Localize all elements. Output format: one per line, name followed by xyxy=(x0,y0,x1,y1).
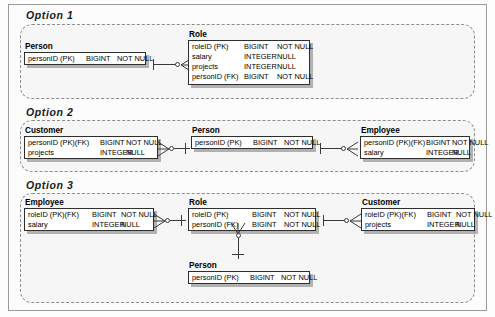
entity-employee-option2: Employee personID (PK)(FK) BIGINT NOT NU… xyxy=(360,126,494,159)
column-name: salary xyxy=(28,220,48,229)
connector-line xyxy=(238,238,239,259)
column-name: projects xyxy=(365,220,391,229)
entity-box: personID (PK) BIGINT NOT NULL xyxy=(24,52,146,65)
option-1-label: Option 1 xyxy=(26,9,73,21)
column-nullability: NOT NULL xyxy=(284,138,320,147)
column-nullability: NULL xyxy=(121,220,140,229)
entity-box: roleID (PK) BIGINT NOT NULL salary INTEG… xyxy=(188,40,310,85)
column-nullability: NOT NULL xyxy=(126,138,162,147)
column-nullability: NOT NULL xyxy=(121,210,157,219)
entity-employee-option3: Employee roleID (PK)(FK) BIGINT NOT NULL… xyxy=(24,198,154,231)
column-name: personID (PK) xyxy=(192,273,239,282)
connector-line xyxy=(153,64,177,65)
option-3-label: Option 3 xyxy=(26,179,73,191)
column-nullability: NOT NULL xyxy=(281,273,317,282)
entity-box: personID (PK)(FK) BIGINT NOT NULL salary… xyxy=(360,136,470,159)
entity-customer-option2: Customer personID (PK)(FK) BIGINT NOT NU… xyxy=(24,126,158,159)
entity-title: Person xyxy=(188,261,310,270)
column-name: personID (PK) xyxy=(28,54,75,63)
one-tick xyxy=(232,254,244,255)
entity-box: personID (PK) BIGINT NOT NULL xyxy=(191,136,313,149)
connector-line xyxy=(170,220,186,221)
entity-role-option1: Role roleID (PK) BIGINT NOT NULL salary … xyxy=(188,30,310,85)
column-name: roleID (PK) xyxy=(192,42,229,51)
column-name: roleID (PK) xyxy=(192,210,229,219)
column-nullability: NOT NULL xyxy=(117,54,153,63)
column-name: projects xyxy=(28,148,54,157)
column-type: BIGINT xyxy=(252,220,277,229)
column-nullability: NULL xyxy=(452,148,471,157)
column-name: personID (PK) xyxy=(195,138,242,147)
column-name: projects xyxy=(192,62,218,71)
entity-title: Role xyxy=(188,30,310,39)
entity-person-option1: Person personID (PK) BIGINT NOT NULL xyxy=(24,42,146,65)
entity-customer-option3: Customer roleID (PK)(FK) BIGINT NOT NULL… xyxy=(361,198,489,231)
option-2-label: Option 2 xyxy=(26,106,73,118)
entity-box: roleID (PK)(FK) BIGINT NOT NULL salary I… xyxy=(24,208,154,231)
column-name: roleID (PK)(FK) xyxy=(28,210,79,219)
column-nullability: NOT NULL xyxy=(452,138,488,147)
entity-box: personID (PK)(FK) BIGINT NOT NULL projec… xyxy=(24,136,158,159)
entity-title: Person xyxy=(191,126,313,135)
connector-line xyxy=(323,220,346,221)
column-name: roleID (PK)(FK) xyxy=(365,210,416,219)
zero-circle xyxy=(344,218,349,223)
entity-box: roleID (PK)(FK) BIGINT NOT NULL projects… xyxy=(361,208,475,231)
entity-person-option2: Person personID (PK) BIGINT NOT NULL xyxy=(191,126,313,149)
column-type: BIGINT xyxy=(253,138,278,147)
er-diagram-figure: Option 1 Person personID (PK) BIGINT NOT… xyxy=(0,0,495,317)
entity-title: Customer xyxy=(24,126,158,135)
column-type: INTEGER xyxy=(92,220,125,229)
column-nullability: NOT NULL xyxy=(277,72,313,81)
entity-box: personID (PK) BIGINT NOT NULL xyxy=(188,271,310,284)
entity-box: roleID (PK) BIGINT NOT NULL personID (FK… xyxy=(188,208,316,231)
one-tick xyxy=(185,143,186,154)
column-nullability: NULL xyxy=(126,148,145,157)
column-nullability: NULL xyxy=(277,52,296,61)
column-type: INTEGER xyxy=(244,62,277,71)
column-type: BIGINT xyxy=(86,54,111,63)
column-type: BIGINT xyxy=(92,210,117,219)
entity-person-option3: Person personID (PK) BIGINT NOT NULL xyxy=(188,261,310,284)
column-nullability: NOT NULL xyxy=(284,220,320,229)
column-nullability: NOT NULL xyxy=(284,210,320,219)
crow-foot-icon xyxy=(347,141,359,157)
column-type: BIGINT xyxy=(426,138,451,147)
zero-circle xyxy=(341,146,346,151)
column-type: BIGINT xyxy=(244,42,269,51)
zero-circle xyxy=(175,62,180,67)
entity-title: Customer xyxy=(361,198,489,207)
column-nullability: NULL xyxy=(277,62,296,71)
column-name: salary xyxy=(364,148,384,157)
entity-title: Employee xyxy=(24,198,154,207)
column-name: personID (FK) xyxy=(192,72,238,81)
column-name: personID (PK)(FK) xyxy=(364,138,425,147)
column-type: BIGINT xyxy=(252,210,277,219)
entity-title: Employee xyxy=(360,126,494,135)
entity-title: Role xyxy=(188,198,316,207)
column-nullability: NULL xyxy=(456,220,475,229)
column-type: INTEGER xyxy=(427,220,460,229)
column-type: BIGINT xyxy=(427,210,452,219)
connector-line xyxy=(320,148,343,149)
column-type: BIGINT xyxy=(100,138,125,147)
column-type: INTEGER xyxy=(244,52,277,61)
column-type: BIGINT xyxy=(244,72,269,81)
connector-line xyxy=(174,148,190,149)
entity-role-option3: Role roleID (PK) BIGINT NOT NULL personI… xyxy=(188,198,316,231)
column-type: BIGINT xyxy=(250,273,275,282)
column-nullability: NOT NULL xyxy=(277,42,313,51)
column-name: salary xyxy=(192,52,212,61)
column-nullability: NOT NULL xyxy=(456,210,492,219)
one-tick xyxy=(181,215,182,226)
column-name: personID (PK)(FK) xyxy=(28,138,89,147)
entity-title: Person xyxy=(24,42,146,51)
